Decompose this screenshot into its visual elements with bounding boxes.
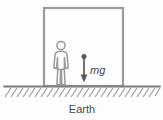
physics-diagram-figure: mg Earth (0, 0, 163, 120)
canvas-background (0, 0, 163, 120)
ground-label-earth: Earth (69, 103, 95, 115)
force-label-mg: mg (90, 64, 106, 76)
diagram-canvas: mg Earth (0, 0, 163, 120)
